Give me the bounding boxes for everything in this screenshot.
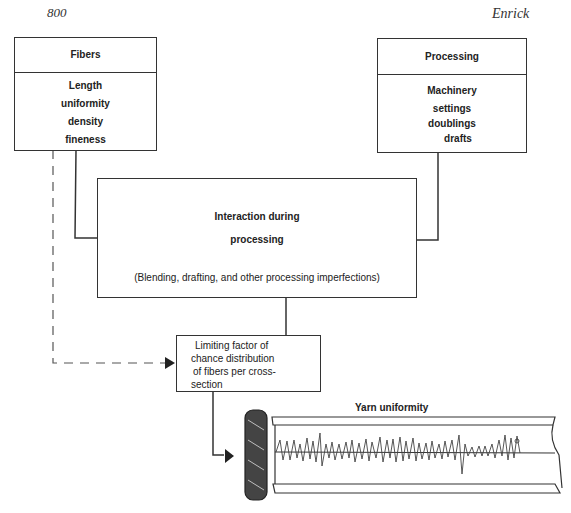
processing-factor: drafts [378,131,526,146]
arrowhead-dashed [165,357,175,369]
yarn-uniformity-drawing [272,417,562,493]
limiting-factor-line: of fibers per cross- [191,365,320,378]
processing-factor: settings [378,101,526,116]
interaction-box: Interaction during processing (Blending,… [97,178,417,298]
yarn-uniformity-label: Yarn uniformity [355,402,428,413]
limiting-factor-line: chance distribution [191,352,320,365]
processing-factor: doublings [378,116,526,131]
fibers-box: Fibers Length uniformity density finenes… [14,37,157,151]
interaction-title-line2: processing [98,234,416,245]
fibers-title: Fibers [15,38,156,73]
bobbin-icon [245,410,267,500]
fibers-properties: Length uniformity density fineness [15,73,156,149]
processing-box: Processing Machinery settings doublings … [377,38,527,153]
fiber-property: uniformity [15,95,156,113]
processing-title: Processing [378,39,526,75]
fiber-property: density [15,113,156,131]
interaction-note: (Blending, drafting, and other processin… [98,272,416,283]
limiting-factor-line: Limiting factor of [191,339,320,352]
fiber-property: fineness [15,131,156,149]
processing-factor: Machinery [378,81,526,101]
limiting-factor-box: Limiting factor of chance distribution o… [176,335,321,392]
limiting-factor-line: section [191,378,320,391]
processing-factors: Machinery settings doublings drafts [378,75,526,146]
arrowhead-yarn [225,449,234,463]
fiber-property: Length [15,77,156,95]
interaction-title-line1: Interaction during [98,211,416,222]
